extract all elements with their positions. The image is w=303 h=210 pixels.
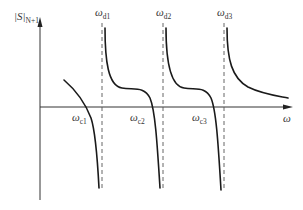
x-axis-label: ω bbox=[283, 112, 291, 124]
curve-branch-4 bbox=[227, 28, 288, 98]
x-axis bbox=[40, 105, 293, 110]
zero-crossing-label-c1: ωc1 bbox=[72, 111, 87, 126]
asymptote-label-d2: ωd2 bbox=[156, 6, 172, 21]
asymptote-label-d1: ωd1 bbox=[95, 6, 111, 21]
characteristic-function-diagram: |S|N+1 ω ωd1 ωd2 ωd3 ωc1 ωc2 ωc3 bbox=[0, 0, 303, 210]
asymptote-label-d3: ωd3 bbox=[217, 6, 233, 21]
curve-branch-1 bbox=[64, 80, 99, 188]
x-axis-arrow-icon bbox=[283, 105, 293, 110]
y-axis bbox=[38, 17, 43, 200]
curve-branch-2 bbox=[105, 28, 160, 188]
zero-crossing-label-c3: ωc3 bbox=[192, 111, 207, 126]
zero-crossing-label-c2: ωc2 bbox=[130, 111, 145, 126]
curve-branch-3 bbox=[166, 28, 221, 190]
y-axis-label: |S|N+1 bbox=[14, 10, 39, 25]
curves bbox=[64, 28, 288, 190]
